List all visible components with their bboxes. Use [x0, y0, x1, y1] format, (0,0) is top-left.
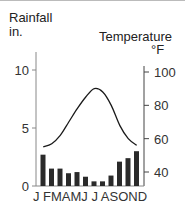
right-tick-label: 40 — [154, 165, 168, 180]
rainfall-bar — [126, 158, 131, 186]
left-tick-label: 0 — [22, 179, 29, 194]
rainfall-bar — [92, 181, 97, 186]
rainfall-bar — [58, 169, 63, 186]
rainfall-bar — [100, 181, 105, 186]
rainfall-bar — [49, 169, 54, 186]
rainfall-bar — [66, 173, 71, 186]
rainfall-bar — [41, 155, 46, 186]
left-tick-label: 10 — [15, 63, 29, 78]
rainfall-bar — [117, 162, 122, 186]
temperature-line — [43, 88, 137, 147]
month-labels: J FMAMJ J ASOND — [33, 189, 147, 204]
rainfall-bar — [134, 151, 139, 186]
right-tick-label: 100 — [154, 65, 176, 80]
left-tick-label: 5 — [22, 121, 29, 136]
right-tick-label: 80 — [154, 98, 168, 113]
rainfall-bar — [109, 176, 114, 186]
rainfall-bar — [83, 177, 88, 186]
rainfall-bar — [75, 172, 80, 186]
climate-chart: 0510406080100J FMAMJ J ASOND — [0, 0, 185, 208]
right-tick-label: 60 — [154, 132, 168, 147]
